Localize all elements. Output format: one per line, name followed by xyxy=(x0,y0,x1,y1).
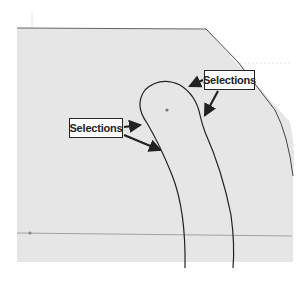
slot-center-point xyxy=(165,108,168,111)
sketch-canvas xyxy=(0,0,307,281)
selections-callout-left: Selections xyxy=(69,118,123,138)
origin-point xyxy=(28,231,31,234)
selections-callout-top: Selections xyxy=(204,70,255,90)
